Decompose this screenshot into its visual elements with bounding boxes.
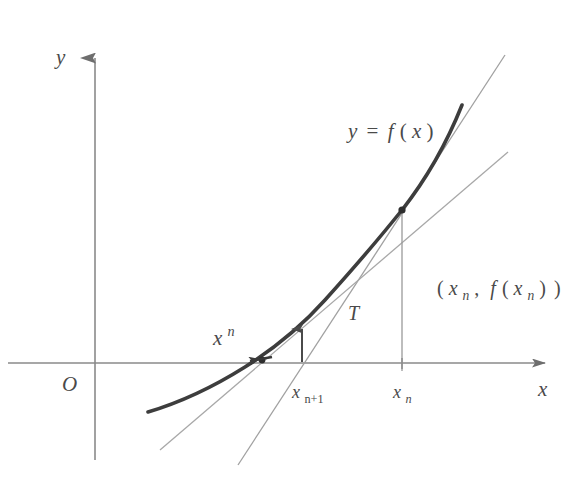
function-label-open-paren: ( xyxy=(400,119,407,143)
function-label-f: f xyxy=(388,119,397,143)
labels-group: y x O y = f ( x ) ( x n , f ( x n ) xyxy=(54,45,561,406)
function-label-lhs: y xyxy=(346,119,358,143)
function-label-close-paren: ) xyxy=(427,119,434,143)
tick-x-next-sub: n+1 xyxy=(305,392,324,406)
tangent-line xyxy=(238,55,505,465)
point-inner-close-paren: ) xyxy=(539,277,546,300)
point-open-paren: ( xyxy=(437,277,444,300)
point-fx-sub: n xyxy=(527,288,534,303)
point-comma: , xyxy=(474,277,479,299)
function-curve xyxy=(148,105,462,412)
newton-method-figure: y x O y = f ( x ) ( x n , f ( x n ) xyxy=(0,0,585,495)
tick-label-x-current: x n xyxy=(392,382,412,406)
point-coordinate-label: ( x n , f ( x n ) ) xyxy=(437,277,561,304)
function-label-equals: = xyxy=(367,119,379,143)
root-label-base: x xyxy=(212,326,223,350)
point-close-paren: ) xyxy=(554,277,561,300)
x-axis-label: x xyxy=(537,377,548,401)
point-marker-xn xyxy=(398,206,405,213)
point-x-sub: n xyxy=(463,288,470,303)
function-label: y = f ( x ) xyxy=(346,119,434,143)
secant-line xyxy=(160,152,508,450)
tick-x-current-sub: n xyxy=(406,392,412,406)
tangent-label: T xyxy=(348,302,361,324)
point-x-base: x xyxy=(448,277,458,299)
root-label-sup: n xyxy=(228,323,235,339)
y-axis-label: y xyxy=(54,45,66,69)
point-inner-open-paren: ( xyxy=(502,277,509,300)
point-f: f xyxy=(490,277,498,300)
root-label: x n xyxy=(212,323,235,350)
tick-x-current-base: x xyxy=(392,382,401,402)
tick-x-next-base: x xyxy=(291,382,300,402)
tick-label-x-next: x n+1 xyxy=(291,382,324,406)
origin-label: O xyxy=(62,372,77,396)
function-label-var: x xyxy=(411,119,422,143)
diagram-canvas: y x O y = f ( x ) ( x n , f ( x n ) xyxy=(0,0,585,495)
point-fx-base: x xyxy=(513,277,523,299)
annotations-group xyxy=(250,206,406,369)
